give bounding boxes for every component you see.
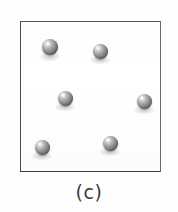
figure-caption: (c) <box>0 181 178 203</box>
particle-sphere <box>93 44 108 59</box>
particle-sphere <box>137 94 152 109</box>
figure-panel: (c) <box>0 0 178 212</box>
particle-sphere <box>42 39 58 55</box>
particle-sphere <box>35 140 50 155</box>
particle-sphere <box>103 136 118 151</box>
particle-sphere <box>58 91 73 106</box>
